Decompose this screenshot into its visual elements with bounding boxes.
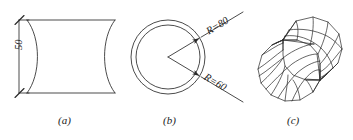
mesh-rib-f5 <box>261 58 283 83</box>
panel-a-right-arc <box>105 20 116 93</box>
panel-a-front-view <box>27 20 115 93</box>
panel-c-wireframe-mesh <box>258 17 342 101</box>
mesh-throat-back <box>283 40 320 80</box>
caption-b: (b) <box>163 114 176 126</box>
mesh-rib-b3 <box>318 22 328 54</box>
leader-r60 <box>168 57 199 76</box>
panel-a-left-arc <box>27 20 38 93</box>
mesh-ring-f1 <box>259 44 314 76</box>
mesh-rib-b1 <box>296 21 298 40</box>
dimension-50-group <box>15 16 29 98</box>
mesh-rib-f3 <box>285 75 288 101</box>
dimension-label-50: 50 <box>13 40 24 51</box>
mesh-rib-f6 <box>258 50 283 69</box>
mesh-ring-f2 <box>266 54 317 89</box>
caption-c: (c) <box>287 114 299 126</box>
mesh-throat <box>283 40 320 80</box>
mesh-rib-f1 <box>306 80 313 92</box>
technical-drawing-figure: 50 R=80 R=60 (a) (b) (c) <box>0 0 353 140</box>
leader-r80 <box>168 38 199 57</box>
caption-a: (a) <box>58 114 71 126</box>
engineering-drawing-canvas <box>0 0 353 140</box>
